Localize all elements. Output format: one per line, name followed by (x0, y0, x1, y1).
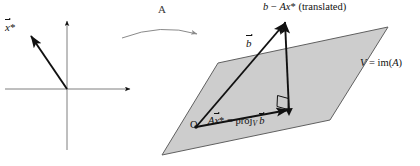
linear-algebra-projection-diagram: x* A b b − Ax* (translated) Ax* = projV … (0, 0, 420, 166)
projection-label: Ax* = projV b (208, 116, 264, 128)
image-plane-group (162, 22, 388, 155)
origin-label: O (190, 120, 198, 131)
diagram-canvas (0, 0, 420, 166)
x-star-vector (31, 36, 67, 89)
x-star-label: x* (5, 22, 15, 33)
domain-axes-group (5, 21, 130, 150)
transformation-arrow-group (122, 29, 197, 38)
residual-vector-label: b − Ax* (translated) (263, 2, 346, 13)
plane-label: V = im(A) (360, 58, 402, 69)
b-vector-label: b (246, 38, 252, 49)
plane-polygon (162, 27, 388, 155)
transformation-label: A (158, 4, 166, 15)
transformation-arrow-path (122, 29, 197, 38)
